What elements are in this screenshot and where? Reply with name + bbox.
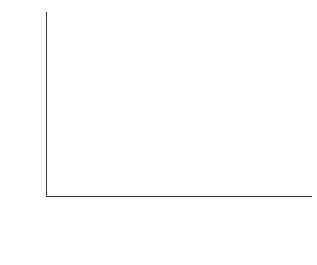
plot-area	[46, 13, 311, 196]
bars-layer	[46, 13, 311, 196]
stacked-bar-chart	[0, 0, 317, 265]
x-axis-line	[46, 196, 312, 197]
